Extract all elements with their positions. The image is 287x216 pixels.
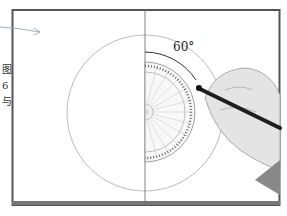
angle-label: 60° <box>173 40 194 54</box>
frame-bottom-shadow <box>12 201 280 205</box>
illustration-canvas <box>0 0 287 216</box>
side-text-2: 6 <box>2 80 14 92</box>
side-text-3: 与 <box>2 96 14 108</box>
side-text-1: 图 <box>2 64 14 76</box>
